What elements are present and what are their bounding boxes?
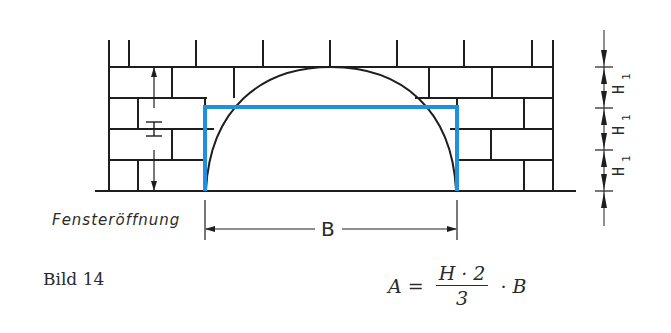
width-label-B: B [321, 217, 335, 241]
svg-text:1: 1 [620, 114, 633, 121]
formula-rhs: B [512, 275, 526, 297]
course-height-label-3: H [610, 167, 628, 176]
formula-lhs: A [388, 275, 402, 297]
formula-numerator: H · 2 [436, 262, 489, 286]
window-opening-label: Fensteröffnung [52, 211, 180, 229]
arch-curve [206, 67, 456, 190]
brick-wall [95, 40, 576, 191]
svg-text:1: 1 [620, 73, 633, 80]
course-height-label-1: H [610, 85, 628, 94]
figure-caption: Bild 14 [43, 269, 104, 289]
formula-fraction: H · 2 3 [436, 262, 489, 310]
formula-denominator: 3 [456, 286, 468, 310]
formula-equals: = [408, 275, 424, 297]
svg-text:1: 1 [620, 155, 633, 162]
course-height-label-2: H [610, 126, 628, 135]
window-opening-outline [205, 107, 457, 191]
course-height-labels: H 1 H 1 H 1 [610, 73, 633, 176]
area-formula: A = H · 2 3 · B [388, 262, 526, 310]
formula-times: · [500, 275, 506, 297]
